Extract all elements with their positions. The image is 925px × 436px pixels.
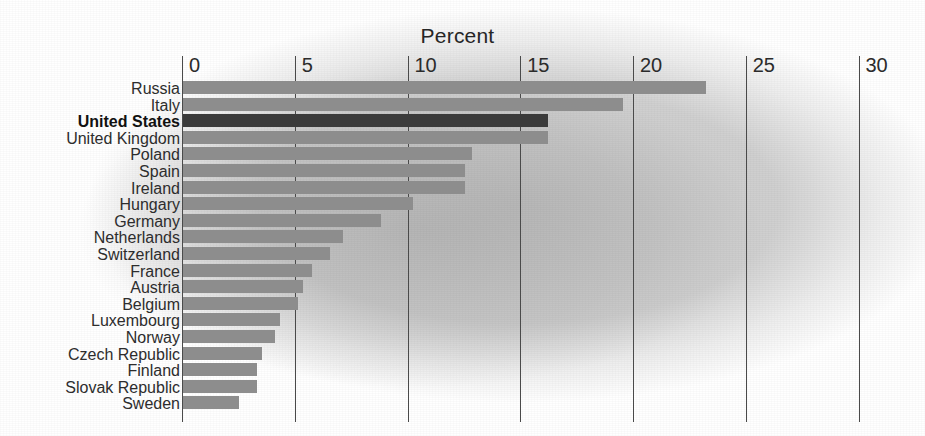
bar-row: Hungary (0, 196, 925, 214)
bar (183, 81, 706, 94)
bar (183, 297, 298, 310)
bar (183, 181, 465, 194)
bar (183, 247, 330, 260)
bar-category-label: Ireland (0, 180, 180, 198)
bar-category-label: Slovak Republic (0, 379, 180, 397)
bar (183, 230, 343, 243)
bar (183, 363, 257, 376)
bar (183, 347, 262, 360)
bar-row: United Kingdom (0, 130, 925, 148)
bar-category-label: France (0, 263, 180, 281)
bar-row: Finland (0, 362, 925, 380)
bar-row: Switzerland (0, 246, 925, 264)
bar-category-label: Germany (0, 213, 180, 231)
bar (183, 164, 465, 177)
bar (183, 396, 239, 409)
bar-category-label: United Kingdom (0, 130, 180, 148)
bar-row: Russia (0, 80, 925, 98)
bar (183, 197, 413, 210)
bar-category-label: Sweden (0, 395, 180, 413)
bar (183, 131, 548, 144)
bar-row: France (0, 263, 925, 281)
bar-row: Germany (0, 213, 925, 231)
bar-category-label: Netherlands (0, 229, 180, 247)
bar-row: Czech Republic (0, 346, 925, 364)
bar (183, 214, 381, 227)
bar (183, 313, 280, 326)
bar-row: Slovak Republic (0, 379, 925, 397)
bar-category-label: Italy (0, 97, 180, 115)
bar-category-label: Finland (0, 362, 180, 380)
bar-row: Italy (0, 97, 925, 115)
bar (183, 98, 623, 111)
bar-category-label: Poland (0, 146, 180, 164)
bar-row: Ireland (0, 180, 925, 198)
bar-row: Sweden (0, 395, 925, 413)
bar (183, 147, 472, 160)
bar-category-label: Belgium (0, 296, 180, 314)
bar-row: United States (0, 113, 925, 131)
bar-category-label: Switzerland (0, 246, 180, 264)
bar (183, 380, 257, 393)
bar-category-label: Czech Republic (0, 346, 180, 364)
bar-chart-figure: Percent 051015202530 RussiaItalyUnited S… (0, 0, 925, 436)
bar-category-label: Norway (0, 329, 180, 347)
bar-category-label: Austria (0, 279, 180, 297)
bar-row: Austria (0, 279, 925, 297)
bar-category-label: Spain (0, 163, 180, 181)
bar-category-label: United States (0, 113, 180, 131)
bar-row: Netherlands (0, 229, 925, 247)
bar-category-label: Luxembourg (0, 312, 180, 330)
bar-row: Luxembourg (0, 312, 925, 330)
bar-row: Poland (0, 146, 925, 164)
bar (183, 114, 548, 127)
bar-category-label: Russia (0, 80, 180, 98)
bar-row: Norway (0, 329, 925, 347)
bar-category-label: Hungary (0, 196, 180, 214)
bar (183, 330, 275, 343)
bar-row: Spain (0, 163, 925, 181)
bar-row: Belgium (0, 296, 925, 314)
bar (183, 264, 312, 277)
plot-area: RussiaItalyUnited StatesUnited KingdomPo… (0, 0, 925, 436)
bar (183, 280, 303, 293)
